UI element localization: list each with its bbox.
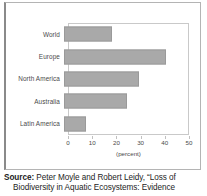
- x-tick-label: 40: [161, 139, 168, 147]
- bar-track-north-america: [64, 68, 185, 90]
- bar-world: [64, 27, 112, 42]
- x-tick-label: 20: [113, 139, 120, 147]
- bar-row-europe: Europe: [6, 45, 189, 67]
- x-tick-label: 30: [137, 139, 144, 147]
- bar-track-europe: [64, 45, 185, 67]
- bar-row-latin-america: Latin America: [6, 113, 189, 135]
- category-label-australia: Australia: [6, 98, 64, 105]
- source-note: Source: Peter Moyle and Robert Leidy, “L…: [4, 173, 205, 193]
- bar-track-world: [64, 23, 185, 45]
- x-axis: 01020304050: [68, 136, 189, 148]
- category-label-europe: Europe: [6, 53, 64, 60]
- x-tick-label: 10: [89, 139, 96, 147]
- bar-latin-america: [64, 116, 86, 131]
- bar-track-australia: [64, 90, 185, 112]
- chart-frame: World Europe North America Australia: [4, 2, 201, 170]
- source-label: Source:: [4, 173, 34, 182]
- bar-australia: [64, 94, 127, 109]
- x-axis-title: (percent): [68, 150, 189, 158]
- figure-container: World Europe North America Australia: [0, 0, 207, 196]
- source-line-1: Peter Moyle and Robert Leidy, “Loss of: [34, 173, 176, 182]
- x-tick-label: 0: [66, 139, 69, 147]
- category-label-world: World: [6, 31, 64, 38]
- bar-north-america: [64, 71, 139, 86]
- x-tick-label: 50: [186, 139, 193, 147]
- bar-rows: World Europe North America Australia: [6, 23, 189, 135]
- category-label-latin-america: Latin America: [6, 120, 64, 127]
- source-line-2: Biodiversity in Aquatic Ecosystems: Evid…: [4, 183, 205, 193]
- bar-track-latin-america: [64, 113, 185, 135]
- category-label-north-america: North America: [6, 75, 64, 82]
- bar-europe: [64, 49, 166, 64]
- bar-row-world: World: [6, 23, 189, 45]
- bar-row-australia: Australia: [6, 90, 189, 112]
- bar-row-north-america: North America: [6, 68, 189, 90]
